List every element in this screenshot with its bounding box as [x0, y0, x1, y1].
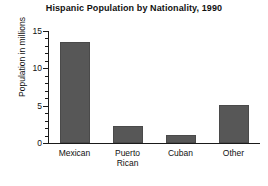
x-axis-label: PuertoRican [101, 149, 154, 168]
x-axis-label: Cuban [154, 149, 207, 159]
y-axis-line [48, 31, 49, 144]
y-tick-minor [45, 76, 48, 77]
y-tick-major [43, 143, 48, 144]
y-tick-minor [45, 113, 48, 114]
bar [60, 42, 90, 143]
x-axis-line [48, 143, 260, 144]
bar [166, 135, 196, 143]
y-tick-label: 0 [37, 138, 42, 148]
y-tick-label: 5 [37, 101, 42, 111]
y-tick-minor [45, 121, 48, 122]
y-tick-label: 15 [33, 26, 42, 36]
y-tick-label: 10 [33, 63, 42, 73]
x-axis-label-line: Mexican [48, 149, 101, 159]
plot-area: 051015 MexicanPuertoRicanCubanOther [48, 31, 260, 143]
y-tick-minor [45, 61, 48, 62]
y-tick-minor [45, 91, 48, 92]
y-tick-minor [45, 128, 48, 129]
y-tick-minor [45, 46, 48, 47]
x-axis-label-line: Cuban [154, 149, 207, 159]
y-tick-minor [45, 83, 48, 84]
chart-title: Hispanic Population by Nationality, 1990 [0, 3, 268, 13]
x-axis-label-line: Other [207, 149, 260, 159]
x-axis-label-line: Rican [101, 159, 154, 169]
y-tick-major [43, 68, 48, 69]
y-tick-major [43, 31, 48, 32]
y-tick-minor [45, 38, 48, 39]
y-tick-minor [45, 98, 48, 99]
y-tick-minor [45, 136, 48, 137]
bar-chart: Hispanic Population by Nationality, 1990… [0, 0, 268, 186]
bar [113, 126, 143, 143]
x-axis-label: Other [207, 149, 260, 159]
x-axis-label: Mexican [48, 149, 101, 159]
bar [219, 105, 249, 143]
y-tick-major [43, 106, 48, 107]
y-axis-title: Population in millions [17, 0, 27, 117]
y-tick-minor [45, 53, 48, 54]
